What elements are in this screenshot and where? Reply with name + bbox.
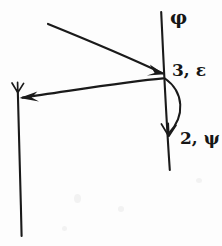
right-vertical-line [161,12,170,170]
diagram-drawing [0,0,222,246]
label-vertex-3-epsilon: 3, ε [172,62,206,79]
incoming-ray [48,24,163,73]
label-phi: φ [170,8,187,27]
diagram-canvas: φ 3, ε 2, ψ [0,0,222,246]
outgoing-ray [23,78,164,97]
left-line-top-arrowhead [12,82,24,92]
left-vertical-line [18,91,22,236]
arc-arrowhead [161,123,176,136]
label-lower-2-psi: 2, ψ [180,130,220,147]
